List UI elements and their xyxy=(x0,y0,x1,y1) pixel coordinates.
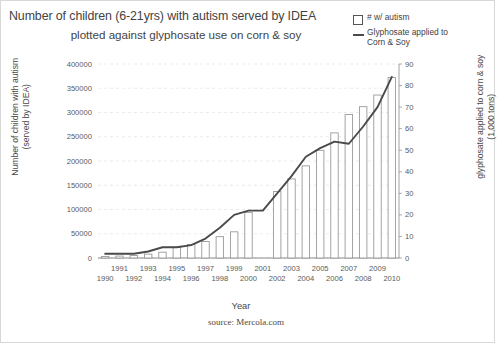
y-axis-left-tick: 400000 xyxy=(67,60,92,69)
y-axis-left-tick: 200000 xyxy=(67,157,92,166)
y-axis-right-tick: 60 xyxy=(405,124,413,133)
x-axis-tick: 1994 xyxy=(154,274,171,283)
bar xyxy=(230,232,237,258)
x-axis-tick: 2009 xyxy=(369,264,386,273)
y-axis-right-tick: 70 xyxy=(405,103,413,112)
x-axis-tick: 1990 xyxy=(97,274,114,283)
x-axis-tick: 1991 xyxy=(111,264,128,273)
bar xyxy=(345,114,352,258)
x-axis-tick: 1997 xyxy=(197,264,214,273)
y-axis-right-tick: 20 xyxy=(405,210,413,219)
bar xyxy=(288,179,295,258)
bar xyxy=(388,78,395,258)
bar xyxy=(202,242,209,258)
x-axis-tick: 2000 xyxy=(240,274,257,283)
bar xyxy=(187,244,194,258)
y-axis-left-tick: 150000 xyxy=(67,181,92,190)
bar xyxy=(273,192,280,258)
y-axis-left-tick: 0 xyxy=(88,254,92,263)
bar xyxy=(116,256,123,258)
x-axis-tick: 2007 xyxy=(340,264,357,273)
y-axis-left-tick: 250000 xyxy=(67,132,92,141)
x-axis-tick: 1998 xyxy=(211,274,228,283)
x-axis-tick: 1992 xyxy=(125,274,142,283)
bar xyxy=(331,133,338,258)
x-axis-tick: 1993 xyxy=(140,264,157,273)
x-axis-tick: 2004 xyxy=(297,274,314,283)
x-axis-tick: 2002 xyxy=(269,274,286,283)
bar xyxy=(130,256,137,258)
x-axis-tick: 2003 xyxy=(283,264,300,273)
y-axis-left-tick: 350000 xyxy=(67,84,92,93)
x-axis-tick: 2001 xyxy=(254,264,271,273)
x-axis-tick: 1995 xyxy=(168,264,185,273)
y-axis-right-tick: 30 xyxy=(405,189,413,198)
x-axis-tick: 2008 xyxy=(355,274,372,283)
bar xyxy=(302,166,309,258)
bar xyxy=(374,95,381,258)
bar xyxy=(316,150,323,258)
bar xyxy=(173,247,180,258)
bar xyxy=(216,237,223,258)
y-axis-right-tick: 80 xyxy=(405,81,413,90)
x-axis-tick: 2005 xyxy=(312,264,329,273)
y-axis-right-tick: 10 xyxy=(405,232,413,241)
x-axis-tick: 1999 xyxy=(226,264,243,273)
bar xyxy=(101,257,108,258)
bar xyxy=(245,212,252,258)
y-axis-right-tick: 90 xyxy=(405,60,413,69)
y-axis-right-tick: 50 xyxy=(405,146,413,155)
bar xyxy=(144,254,151,258)
y-axis-right-tick: 0 xyxy=(405,254,409,263)
x-axis-tick: 1996 xyxy=(183,274,200,283)
x-axis-tick: 2010 xyxy=(383,274,400,283)
plot-area: 0500001000001500002000002500003000003500… xyxy=(1,1,496,343)
bar xyxy=(159,252,166,258)
y-axis-left-tick: 100000 xyxy=(67,205,92,214)
y-axis-right-tick: 40 xyxy=(405,167,413,176)
y-axis-left-tick: 300000 xyxy=(67,108,92,117)
y-axis-left-tick: 50000 xyxy=(71,229,92,238)
x-axis-tick: 2006 xyxy=(326,274,343,283)
